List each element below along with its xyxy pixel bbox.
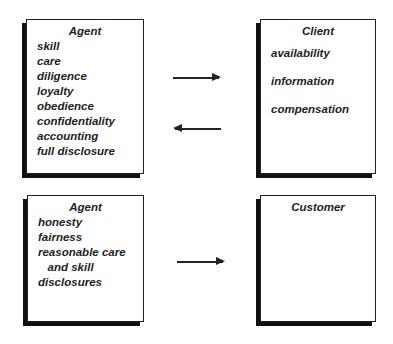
customer-box: Customer (260, 195, 376, 322)
customer-title: Customer (261, 201, 375, 213)
arrow-left-icon (175, 128, 221, 130)
list-item: skill (37, 39, 115, 54)
arrow-right-icon (177, 261, 223, 263)
agent-client-title: Agent (27, 25, 143, 37)
list-item: full disclosure (37, 144, 115, 159)
list-item: information (271, 67, 349, 95)
client-box: Client availability information compensa… (260, 19, 376, 174)
list-item: diligence (37, 69, 115, 84)
list-item: accounting (37, 129, 115, 144)
list-item: fairness (38, 230, 126, 245)
agent-client-duties-list: skill care diligence loyalty obedience c… (37, 39, 115, 159)
list-item: disclosures (38, 275, 126, 290)
list-item: compensation (271, 95, 349, 123)
list-item: availability (271, 39, 349, 67)
client-duties-list: availability information compensation (271, 39, 349, 123)
list-item: care (37, 54, 115, 69)
list-item: reasonable care (38, 245, 126, 260)
list-item: honesty (38, 215, 126, 230)
list-item: loyalty (37, 84, 115, 99)
agent-customer-box: Agent honesty fairness reasonable care a… (27, 195, 144, 322)
list-item: obedience (37, 99, 115, 114)
agent-customer-title: Agent (28, 201, 143, 213)
agent-customer-duties-list: honesty fairness reasonable care and ski… (38, 215, 126, 290)
agent-client-box: Agent skill care diligence loyalty obedi… (26, 19, 144, 174)
arrow-right-icon (173, 77, 219, 79)
list-item: confidentiality (37, 114, 115, 129)
list-item: and skill (38, 260, 126, 275)
client-title: Client (261, 25, 375, 37)
